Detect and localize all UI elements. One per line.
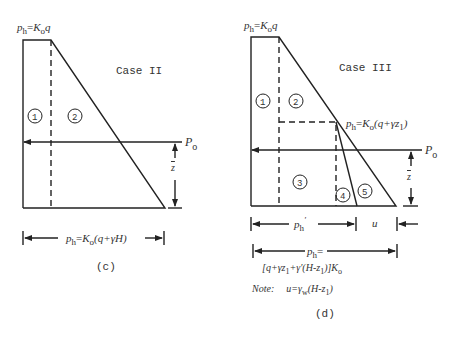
kink-pressure-label: ph=Ko(q+γz1) bbox=[345, 117, 408, 132]
top-pressure-label-d: ph=Koq bbox=[243, 19, 278, 34]
figure-d bbox=[251, 37, 422, 258]
zbar-label-d: z bbox=[406, 171, 411, 182]
bottom-pressure-label-c: ph=Ko(q+γH) bbox=[65, 232, 127, 247]
caption-c: (c) bbox=[96, 261, 116, 273]
top-pressure-label-c: ph=Koq bbox=[16, 21, 51, 36]
total-pressure-label-line2: [q+γz1+γ′(H-z1)]Ko bbox=[262, 262, 342, 276]
region-label-d4: 4 bbox=[340, 192, 345, 202]
effective-pressure-dim-label: ph′ bbox=[293, 215, 307, 233]
pore-pressure-dim-label: u bbox=[372, 217, 378, 229]
region-label-1: 1 bbox=[32, 113, 37, 123]
dashed-kink-guide bbox=[279, 122, 336, 206]
case-label-c: Case II bbox=[116, 65, 162, 77]
caption-d: (d) bbox=[315, 308, 335, 320]
earth-pressure-diagrams: ph=Koq Case II 1 2 Po z ph=Ko(q+γH) (c) bbox=[0, 0, 467, 343]
region-label-2: 2 bbox=[72, 113, 77, 123]
resultant-label-c: Po bbox=[184, 135, 197, 152]
region-label-d3: 3 bbox=[297, 179, 302, 189]
zbar-label-c: z bbox=[170, 162, 175, 173]
total-pressure-label-line1: ph= bbox=[306, 245, 323, 260]
region-label-d5: 5 bbox=[362, 188, 367, 198]
region-label-d2: 2 bbox=[293, 98, 298, 108]
resultant-label-d: Po bbox=[424, 143, 437, 160]
note-text: Note:u=γw(H-z1) bbox=[251, 283, 333, 297]
region-label-d1: 1 bbox=[260, 98, 265, 108]
case-label-d: Case III bbox=[339, 62, 392, 74]
